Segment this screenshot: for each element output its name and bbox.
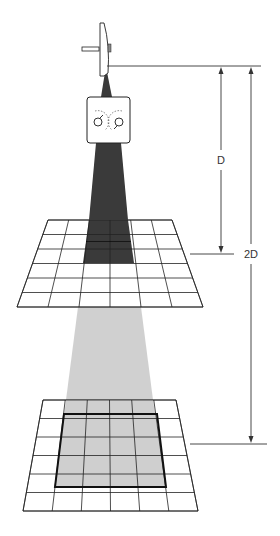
light-beam xyxy=(66,307,153,400)
anode-stem xyxy=(82,47,99,51)
upper-grid xyxy=(17,220,203,307)
lower-grid xyxy=(23,400,198,511)
dark-beam xyxy=(89,143,128,220)
collimator xyxy=(87,97,130,143)
distance-d-label: D xyxy=(217,154,225,166)
anode-disk xyxy=(100,23,109,76)
diagram-canvas: D 2D xyxy=(0,0,280,536)
inverse-square-law-diagram: D 2D xyxy=(0,0,280,536)
anode-hub xyxy=(108,44,111,52)
distance-2d-label: 2D xyxy=(244,248,258,260)
x-ray-tube-anode xyxy=(82,23,111,76)
